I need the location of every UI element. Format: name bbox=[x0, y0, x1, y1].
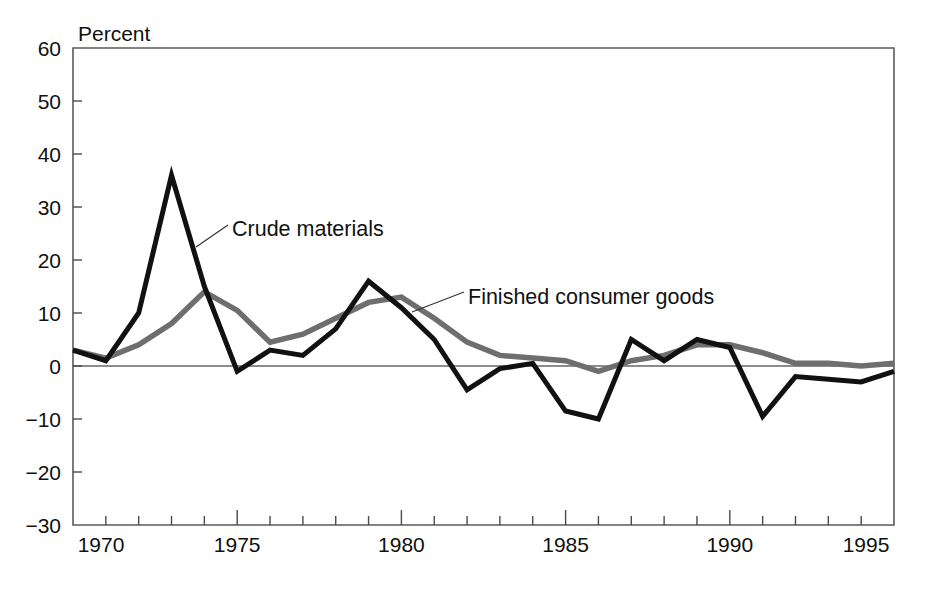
x-tick-label: 1980 bbox=[378, 533, 425, 556]
x-axis-minor-ticks bbox=[106, 516, 861, 525]
y-axis-tick-labels: 6050403020100−10−20−30 bbox=[25, 37, 61, 537]
y-tick-label: 0 bbox=[49, 355, 61, 378]
y-axis-title: Percent bbox=[78, 22, 151, 45]
y-tick-label: 60 bbox=[38, 37, 61, 60]
annotation-leader-line bbox=[196, 225, 228, 247]
y-tick-label: 40 bbox=[38, 143, 61, 166]
y-tick-label: 30 bbox=[38, 196, 61, 219]
y-tick-label: 50 bbox=[38, 90, 61, 113]
annotation-label: Crude materials bbox=[232, 217, 384, 241]
y-tick-label: −20 bbox=[25, 461, 61, 484]
y-tick-label: 10 bbox=[38, 302, 61, 325]
x-tick-label: 1995 bbox=[843, 533, 890, 556]
x-tick-label: 1990 bbox=[706, 533, 753, 556]
chart-figure: 6050403020100−10−20−30 19701975198019851… bbox=[0, 0, 944, 598]
x-tick-label: 1985 bbox=[542, 533, 589, 556]
y-tick-label: −30 bbox=[25, 514, 61, 537]
x-axis-major-ticks bbox=[237, 510, 730, 525]
x-tick-label: 1970 bbox=[78, 533, 125, 556]
annotation-label: Finished consumer goods bbox=[468, 285, 714, 309]
series-annotations: Crude materialsFinished consumer goods bbox=[196, 217, 714, 312]
y-tick-label: −10 bbox=[25, 408, 61, 431]
line-chart-canvas: 6050403020100−10−20−30 19701975198019851… bbox=[0, 0, 944, 598]
annotation-leader-line bbox=[412, 292, 464, 312]
x-axis-tick-labels: 197019751980198519901995 bbox=[78, 533, 890, 556]
x-tick-label: 1975 bbox=[214, 533, 261, 556]
y-tick-label: 20 bbox=[38, 249, 61, 272]
y-axis-ticks bbox=[73, 101, 82, 472]
